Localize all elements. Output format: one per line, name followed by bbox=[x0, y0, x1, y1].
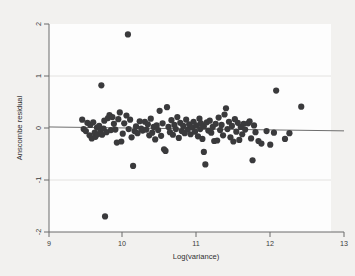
data-point bbox=[221, 111, 227, 117]
data-point bbox=[201, 149, 207, 155]
data-point bbox=[162, 148, 168, 154]
y-tick-label-1: 1 bbox=[34, 74, 43, 78]
x-tick-label-13: 13 bbox=[340, 239, 348, 248]
data-point bbox=[251, 122, 257, 128]
data-point bbox=[263, 128, 269, 134]
data-point bbox=[202, 161, 208, 167]
data-point bbox=[117, 109, 123, 115]
data-point bbox=[249, 157, 255, 163]
data-point bbox=[199, 136, 205, 142]
data-point bbox=[258, 141, 264, 147]
data-point bbox=[158, 133, 164, 139]
data-point bbox=[112, 126, 118, 132]
data-point bbox=[164, 104, 170, 110]
data-point bbox=[173, 126, 179, 132]
x-tick-label-9: 9 bbox=[47, 239, 51, 248]
data-point bbox=[129, 134, 135, 140]
data-point bbox=[298, 104, 304, 110]
data-point bbox=[118, 138, 124, 144]
data-point bbox=[90, 119, 96, 125]
data-point bbox=[143, 126, 149, 132]
data-point bbox=[229, 123, 235, 129]
data-point bbox=[115, 116, 121, 122]
data-point bbox=[273, 87, 279, 93]
x-tick-label-10: 10 bbox=[118, 239, 126, 248]
data-point bbox=[271, 130, 277, 136]
data-point bbox=[220, 132, 226, 138]
data-point bbox=[252, 129, 258, 135]
y-tick-label-0: 0 bbox=[34, 126, 43, 130]
data-point bbox=[165, 124, 171, 130]
data-point bbox=[155, 127, 161, 133]
data-point bbox=[145, 121, 151, 127]
y-tick-label-2: 2 bbox=[34, 22, 43, 26]
data-point bbox=[230, 138, 236, 144]
x-tick-label-12: 12 bbox=[266, 239, 274, 248]
data-point bbox=[233, 129, 239, 135]
data-point bbox=[286, 130, 292, 136]
data-point bbox=[126, 126, 132, 132]
data-point bbox=[127, 117, 133, 123]
x-tick-label-11: 11 bbox=[192, 239, 199, 248]
data-point bbox=[218, 122, 224, 128]
data-point bbox=[109, 114, 115, 120]
data-point bbox=[152, 136, 158, 142]
data-point bbox=[79, 117, 85, 123]
data-point bbox=[248, 135, 254, 141]
data-point bbox=[170, 132, 176, 138]
y-tick-label-neg1: -1 bbox=[34, 177, 43, 183]
y-axis-title: Anscombe residual bbox=[15, 95, 24, 160]
data-point bbox=[120, 131, 126, 137]
data-point bbox=[130, 163, 136, 169]
data-point bbox=[207, 118, 213, 124]
scatter-plot-figure: 2 1 0 -1 -2 9 10 11 12 13 Log(variance) … bbox=[0, 0, 355, 276]
data-point bbox=[217, 127, 223, 133]
plot-canvas: 2 1 0 -1 -2 9 10 11 12 13 Log(variance) … bbox=[0, 0, 355, 276]
data-point bbox=[208, 130, 214, 136]
data-point bbox=[111, 121, 117, 127]
data-point bbox=[267, 142, 273, 148]
data-point bbox=[121, 120, 127, 126]
data-point bbox=[242, 126, 248, 132]
data-point bbox=[174, 114, 180, 120]
data-point bbox=[216, 115, 222, 121]
data-point bbox=[236, 137, 242, 143]
x-axis-title: Log(variance) bbox=[173, 252, 220, 261]
data-point bbox=[282, 136, 288, 142]
data-point bbox=[214, 137, 220, 143]
data-point bbox=[159, 120, 165, 126]
y-tick-label-neg2: -2 bbox=[34, 229, 43, 235]
data-point bbox=[157, 108, 163, 114]
data-point bbox=[223, 105, 229, 111]
data-point bbox=[213, 121, 219, 127]
data-point bbox=[176, 135, 182, 141]
data-point bbox=[148, 116, 154, 122]
data-point bbox=[125, 31, 131, 37]
data-point bbox=[102, 213, 108, 219]
data-point bbox=[98, 82, 104, 88]
data-point bbox=[149, 130, 155, 136]
